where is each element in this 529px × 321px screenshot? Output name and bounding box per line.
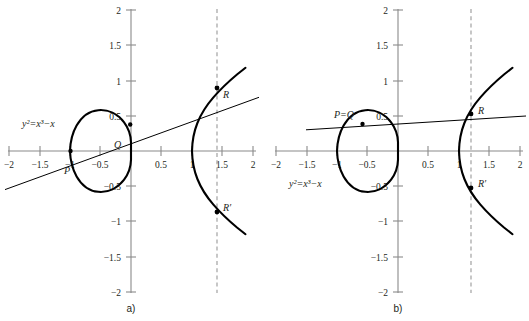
point-r (469, 112, 474, 117)
y-tick-label: −1 (378, 217, 388, 227)
label-r: R (477, 105, 484, 116)
y-tick-labels: 2 1.5 1 0.5 −0.5 −1 −1.5 −2 (371, 6, 388, 298)
panel-b: −2 −1.5 −1 −0.5 0.5 1 1.5 2 2 1.5 1 0.5 … (265, 0, 529, 321)
curve-unbounded-branch-upper (192, 68, 246, 151)
point-r-prime (469, 186, 474, 191)
y-tick-label: −1 (111, 217, 121, 227)
y-tick-label: −2 (111, 288, 121, 298)
panel-b-plot: −2 −1.5 −1 −0.5 0.5 1 1.5 2 2 1.5 1 0.5 … (265, 0, 529, 321)
equation-label: y²=x³−x (21, 118, 55, 129)
label-r-prime: R′ (477, 178, 487, 189)
x-tick-label: −2 (4, 160, 14, 170)
panel-a-caption: a) (127, 303, 136, 314)
x-tick-label: 1.5 (216, 160, 228, 170)
x-tick-label: −0.5 (91, 160, 108, 170)
x-tick-label: −1.5 (31, 160, 48, 170)
x-tick-label: −0.5 (358, 160, 375, 170)
x-tick-label: −2 (271, 160, 281, 170)
label-p: P (63, 165, 70, 176)
label-r: R (222, 89, 229, 100)
point-p-equals-q (360, 122, 364, 126)
y-tick-label: 1 (116, 77, 121, 87)
figure-elliptic-curve-group-law: −2 −1.5 −1 −0.5 0.5 1 1.5 2 2 1.5 1 0.5 … (0, 0, 529, 321)
x-tick-label: 2 (518, 160, 523, 170)
equation-label: y²=x³−x (288, 178, 322, 189)
y-tick-label: −1.5 (371, 253, 388, 263)
y-tick-label: 2 (116, 6, 121, 16)
y-tick-label: 1.5 (376, 41, 388, 51)
y-tick-label: −1.5 (104, 253, 121, 263)
point-r-prime (215, 210, 220, 215)
panel-a: −2 −1.5 −1 −0.5 0.5 1 1.5 2 2 1.5 1 0.5 … (0, 0, 264, 321)
point-p (68, 149, 72, 153)
y-tick-label: 1.5 (109, 41, 121, 51)
panel-b-caption: b) (394, 303, 403, 314)
x-tick-label: 0.5 (155, 160, 167, 170)
curve-unbounded-branch-upper (459, 68, 513, 151)
panel-a-plot: −2 −1.5 −1 −0.5 0.5 1 1.5 2 2 1.5 1 0.5 … (0, 0, 264, 321)
point-r (215, 86, 220, 91)
x-tick-label: 2 (251, 160, 256, 170)
y-tick-label: 1 (383, 77, 388, 87)
point-q (128, 122, 132, 126)
x-tick-label: −1.5 (298, 160, 315, 170)
label-p-equals-q: P=Q (333, 109, 355, 120)
label-q: Q (114, 139, 122, 150)
x-tick-label: 0.5 (422, 160, 434, 170)
label-r-prime: R′ (222, 202, 232, 213)
y-tick-label: 2 (383, 6, 388, 16)
x-tick-label: 1.5 (483, 160, 495, 170)
y-tick-labels: 2 1.5 1 0.5 −0.5 −1 −1.5 −2 (104, 6, 121, 298)
y-tick-label: −2 (378, 288, 388, 298)
